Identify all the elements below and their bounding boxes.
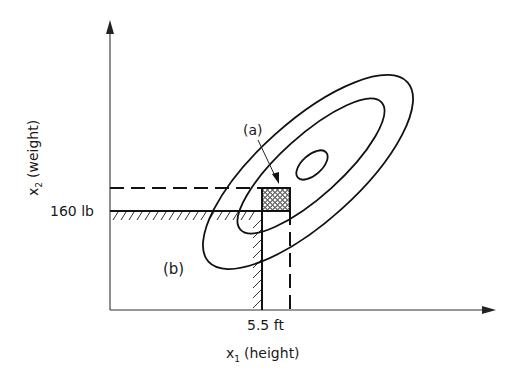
- inner-contour: [291, 145, 333, 185]
- region-a-crosshatch: [262, 188, 290, 211]
- y-axis-arrow-icon: [106, 20, 114, 34]
- outer-contour: [175, 45, 441, 299]
- weight-tick-label: 160 lb: [50, 203, 94, 219]
- hatch-horizontal: [113, 212, 254, 220]
- x-axis-arrow-icon: [482, 306, 496, 314]
- annotation-a-label: (a): [243, 122, 263, 138]
- svg-text:x1(height): x1(height): [226, 345, 300, 364]
- x-axis-label-sub: 1: [234, 354, 240, 364]
- bivariate-contour-diagram: (a) (b) 160 lb 5.5 ft x1(height) x2(weig…: [0, 0, 521, 386]
- x-axis-label-var: x: [226, 345, 234, 361]
- annotation-a-arrow: [258, 140, 276, 178]
- y-axis-label-sub: 2: [34, 182, 44, 188]
- density-contours: [175, 45, 441, 299]
- x-axis-label-text: (height): [244, 345, 300, 361]
- y-axis-label-text: (weight): [25, 120, 41, 178]
- svg-text:x2(weight): x2(weight): [25, 120, 44, 196]
- y-axis-label: x2(weight): [25, 120, 44, 196]
- annotation-a-arrowhead-icon: [272, 172, 279, 184]
- height-tick-label: 5.5 ft: [247, 317, 284, 333]
- y-axis-label-var: x: [25, 188, 41, 196]
- x-axis-label: x1(height): [226, 345, 300, 364]
- annotation-b-label: (b): [163, 260, 184, 278]
